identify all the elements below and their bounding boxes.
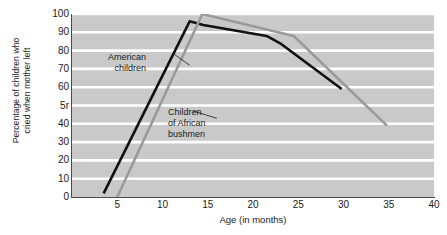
gridlines xyxy=(72,14,434,179)
y-tick-label: 100 xyxy=(52,9,69,19)
plot-canvas xyxy=(72,14,434,197)
y-tick-label: 60 xyxy=(58,82,69,92)
x-axis-tick-labels: 510152025303540 xyxy=(0,199,447,215)
x-tick-label: 25 xyxy=(287,199,309,211)
x-tick-label: 10 xyxy=(152,199,174,211)
x-tick-label: 5 xyxy=(106,199,128,211)
annotation-american-children: American children xyxy=(84,52,146,74)
y-tick-label: 70 xyxy=(58,64,69,74)
x-tick-label: 35 xyxy=(378,199,400,211)
y-tick-label: 20 xyxy=(58,155,69,165)
x-tick-label: 40 xyxy=(423,199,445,211)
y-tick-label: 5r xyxy=(60,101,69,111)
plot-area xyxy=(72,14,434,197)
y-tick-label: 40 xyxy=(58,119,69,129)
chart-figure: Percentage of children who cried when mo… xyxy=(0,0,447,235)
x-tick-label: 20 xyxy=(242,199,264,211)
x-tick-label: 15 xyxy=(197,199,219,211)
y-tick-label: 30 xyxy=(58,137,69,147)
y-axis-title: Percentage of children who cried when mo… xyxy=(11,0,32,186)
y-tick-label: 90 xyxy=(58,27,69,37)
y-axis-line xyxy=(71,14,72,198)
annotation-african-bushmen: Children of African bushmen xyxy=(168,107,238,140)
y-tick-label: 80 xyxy=(58,46,69,56)
y-tick-label: 10 xyxy=(58,174,69,184)
x-axis-title: Age (in months) xyxy=(72,214,434,225)
x-tick-label: 30 xyxy=(333,199,355,211)
